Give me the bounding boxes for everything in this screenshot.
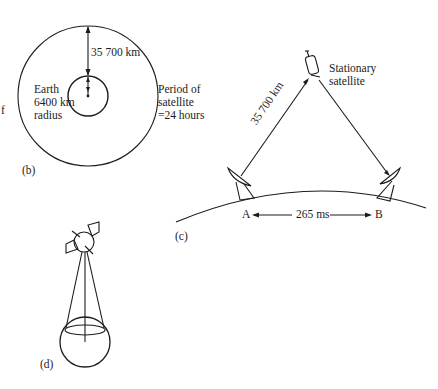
arrowhead-up-icon [86, 26, 91, 33]
stationary-satellite-label: Stationary satellite [329, 62, 376, 88]
cone-edge-left [66, 252, 82, 328]
arrowhead-up-icon [86, 77, 90, 82]
period-label-line: =24 hours [158, 109, 204, 122]
satellite-link-diagram [176, 51, 426, 222]
period-label-line: Period of [158, 83, 204, 96]
earth-center-dot [87, 95, 90, 98]
arrowhead-icon [384, 170, 390, 176]
period-label: Period of satellite =24 hours [158, 83, 204, 122]
coverage-diagram [60, 222, 110, 367]
period-label-line: satellite [158, 96, 204, 109]
dish-antenna-a-icon [228, 168, 254, 200]
earth-label-line: 6400 km [34, 96, 75, 109]
margin-fragment: f [1, 104, 5, 117]
station-a-label: A [242, 208, 250, 221]
earth-label-line: Earth [34, 83, 75, 96]
downlink-line [319, 80, 388, 174]
satellite-with-panels-icon [66, 222, 99, 254]
diagram-canvas [0, 0, 438, 389]
figure-d-caption: (d) [40, 358, 53, 371]
figure-b-caption: (b) [22, 164, 35, 177]
delay-label: 265 ms [296, 208, 330, 221]
satellite-label-line: satellite [329, 75, 376, 88]
station-b-label: B [375, 208, 383, 221]
satellite-label-line: Stationary [329, 62, 376, 75]
arrowhead-down-icon [86, 87, 90, 92]
arrowhead-left-icon [252, 213, 259, 218]
cone-edge-right [87, 252, 104, 328]
arrowhead-right-icon [365, 213, 372, 218]
earth-label: Earth 6400 km radius [34, 83, 75, 122]
arrowhead-down-icon [86, 69, 91, 76]
figure-c-caption: (c) [175, 230, 188, 243]
earth-label-line: radius [34, 109, 75, 122]
stationary-satellite-icon [305, 51, 320, 77]
orbit-distance-label: 35 700 km [91, 46, 140, 59]
arrowhead-icon [303, 78, 309, 85]
